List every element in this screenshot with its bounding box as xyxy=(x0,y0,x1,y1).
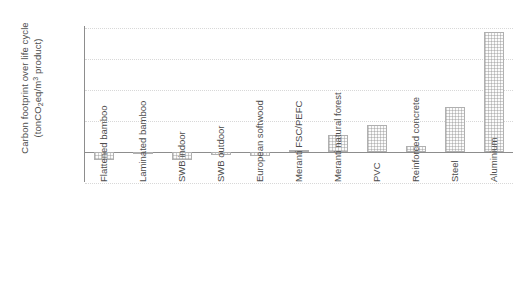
gridline xyxy=(85,90,513,91)
x-axis-tick-label: Reinforced concrete xyxy=(409,97,423,182)
x-axis-tick-label: Flattened bamboo xyxy=(97,105,111,182)
y-axis-title-line1: Carbon footprint over life cycle xyxy=(19,22,30,154)
y-axis-title-line2: (tonCO2eq/m3 product) xyxy=(32,22,46,154)
y-axis-title: Carbon footprint over life cycle (tonCO2… xyxy=(12,0,52,175)
gridline xyxy=(85,59,513,60)
x-axis-tick-label: Steel xyxy=(448,160,462,182)
chart-figure: Carbon footprint over life cycle (tonCO2… xyxy=(0,0,526,290)
x-axis-tick-label: PVC xyxy=(370,162,384,182)
x-axis-tick-label: European softwood xyxy=(253,100,267,182)
gridline xyxy=(85,28,513,29)
x-axis-tick-label: Aluminium xyxy=(487,138,501,182)
x-axis-tick-label: Meranti FSC/PEFC xyxy=(292,101,306,182)
bar xyxy=(367,125,387,152)
x-axis-tick-label: Meranti natural forest xyxy=(331,92,345,182)
x-axis-tick-label: SWB indoor xyxy=(175,131,189,182)
bar xyxy=(445,107,465,152)
bar xyxy=(484,32,504,152)
gridline xyxy=(85,183,513,184)
x-axis-tick-label: Laminated bamboo xyxy=(136,101,150,182)
x-axis-tick-label: SWB outdoor xyxy=(214,126,228,183)
